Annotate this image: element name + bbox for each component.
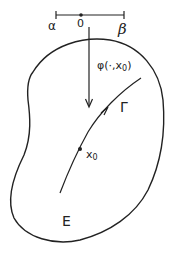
beta-label: β (117, 20, 127, 38)
curve-direction-arrow (101, 107, 108, 115)
region-label: E (62, 213, 71, 229)
interval (56, 11, 124, 19)
gamma-label: Γ (120, 99, 128, 115)
region-boundary (11, 39, 164, 242)
diagram-canvas: α 0 β φ(·,x0) Γ x0 E (0, 0, 171, 257)
origin-label: 0 (77, 17, 84, 30)
x0-point (78, 147, 82, 151)
flow-label: φ(·,x0) (97, 59, 131, 73)
x0-label: x0 (86, 148, 98, 162)
curve-gamma (60, 78, 141, 193)
alpha-label: α (48, 19, 56, 33)
